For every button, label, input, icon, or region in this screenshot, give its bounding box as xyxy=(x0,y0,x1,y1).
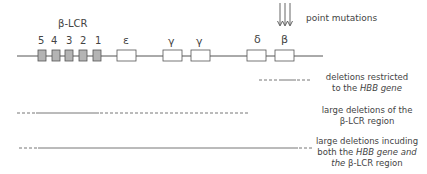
lcr-site-4 xyxy=(52,50,60,61)
gene-label-gamma-a: γ xyxy=(196,35,203,48)
lcr-site-label-2: 2 xyxy=(80,35,86,46)
gene-box-delta xyxy=(247,50,266,61)
gene-label-beta: β xyxy=(281,33,288,46)
lcr-site-label-1: 1 xyxy=(95,35,101,46)
lcr-site-label-5: 5 xyxy=(38,35,44,46)
gene-label-gamma-g: γ xyxy=(168,35,175,48)
deletion-hbb-note: deletions restricted to the HBB gene xyxy=(308,72,426,94)
point-mutations-label: point mutations xyxy=(306,13,377,23)
gene-label-epsilon: ε xyxy=(123,34,129,47)
lcr-site-label-3: 3 xyxy=(66,35,72,46)
deletion-lcr-note: large deletions of the β-LCR region xyxy=(308,105,426,127)
lcr-site-1 xyxy=(93,50,101,61)
lcr-title: β-LCR xyxy=(58,18,88,29)
gene-box-gamma-g xyxy=(163,50,182,61)
deletion-both-note: large deletions incuding both the HBB ge… xyxy=(308,136,426,169)
gene-box-beta xyxy=(275,50,294,61)
point-mutation-arrows xyxy=(278,3,293,26)
gene-label-delta: δ xyxy=(254,33,261,46)
lcr-site-2 xyxy=(79,50,87,61)
gene-box-gamma-a xyxy=(191,50,210,61)
lcr-site-5 xyxy=(38,50,46,61)
lcr-site-label-4: 4 xyxy=(51,35,57,46)
gene-box-epsilon xyxy=(117,50,136,61)
lcr-site-3 xyxy=(65,50,73,61)
